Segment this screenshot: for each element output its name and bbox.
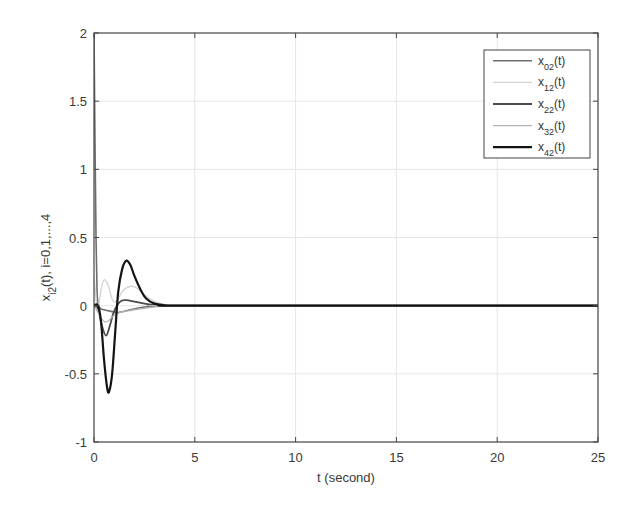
y-tick-label: 0	[80, 299, 87, 314]
x-tick-label: 15	[389, 450, 403, 465]
line-chart: 0510152025 -1-0.500.511.52 t (second) xi…	[0, 0, 636, 521]
y-axis-label: xi2(t), i=0,1,...,4	[38, 214, 58, 302]
legend: x02(t)x12(t)x22(t)x32(t)x42(t)	[484, 50, 590, 158]
x-tick-label: 25	[591, 450, 605, 465]
x-tick-label: 20	[490, 450, 504, 465]
y-tick-label: -1	[75, 435, 87, 450]
y-tick-label: 2	[80, 26, 87, 41]
y-tick-label: 0.5	[69, 231, 87, 246]
x-tick-label: 5	[191, 450, 198, 465]
y-tick-label: 1	[80, 162, 87, 177]
x-axis-label: t (second)	[317, 470, 375, 485]
y-tick-label: -0.5	[65, 367, 87, 382]
y-tick-label: 1.5	[69, 94, 87, 109]
x-tick-label: 10	[288, 450, 302, 465]
x-tick-label: 0	[90, 450, 97, 465]
